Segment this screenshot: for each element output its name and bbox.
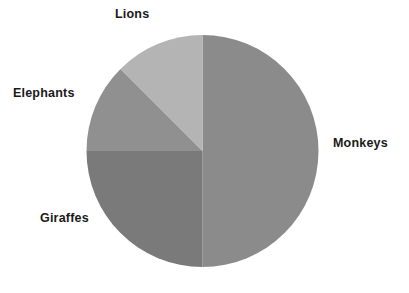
pie-label-elephants: Elephants <box>13 87 75 100</box>
pie-label-monkeys: Monkeys <box>333 137 388 150</box>
pie-label-lions: Lions <box>115 8 149 21</box>
pie-chart-figure: Lions Elephants Giraffes Monkeys <box>0 0 409 293</box>
pie-label-giraffes: Giraffes <box>40 212 89 225</box>
pie-slice-giraffes[interactable] <box>87 151 203 267</box>
pie-slice-monkeys[interactable] <box>203 35 319 267</box>
